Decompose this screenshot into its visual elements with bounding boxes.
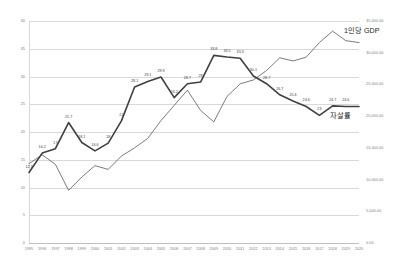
data-label-suicide-2005: 29.9 xyxy=(157,70,164,74)
series-lines xyxy=(0,0,409,274)
data-label-suicide-1997: 17 xyxy=(53,142,57,146)
chart-container: 0510152025303540 0.005,000.0010,000.0015… xyxy=(0,0,409,274)
series-label-suicide-rate: 자살률 xyxy=(330,112,351,119)
data-label-suicide-2019: 24.6 xyxy=(342,99,349,103)
data-label-suicide-2009: 33.8 xyxy=(210,48,217,52)
data-label-suicide-2010: 33.5 xyxy=(223,50,230,54)
data-label-suicide-2018: 24.7 xyxy=(329,99,336,103)
data-label-suicide-1996: 16.2 xyxy=(39,146,46,150)
data-label-suicide-2013: 28.7 xyxy=(263,77,270,81)
data-label-suicide-2006: 26.2 xyxy=(171,91,178,95)
data-label-suicide-2004: 29.1 xyxy=(144,74,151,78)
data-label-suicide-2017: 23 xyxy=(317,108,321,112)
data-label-suicide-2012: 30.1 xyxy=(250,69,257,73)
data-label-suicide-2014: 26.7 xyxy=(276,88,283,92)
data-label-suicide-1999: 18.1 xyxy=(78,136,85,140)
data-label-suicide-2015: 25.6 xyxy=(289,94,296,98)
data-label-suicide-2003: 28.1 xyxy=(131,80,138,84)
line-gdp-per-capita xyxy=(29,31,359,190)
data-label-suicide-2016: 24.6 xyxy=(303,99,310,103)
data-label-suicide-2000: 16.6 xyxy=(91,144,98,148)
line-suicide-rate xyxy=(29,55,359,172)
data-label-suicide-1995: 12.7 xyxy=(25,166,32,170)
data-label-suicide-2011: 33.3 xyxy=(237,51,244,55)
data-label-suicide-2001: 18 xyxy=(106,136,110,140)
data-label-suicide-2007: 28.7 xyxy=(184,77,191,81)
data-label-suicide-1998: 21.7 xyxy=(65,116,72,120)
series-label-gdp-per-capita: 1인당 GDP xyxy=(344,27,380,34)
data-label-suicide-2008: 29 xyxy=(199,75,203,79)
data-label-suicide-2002: 22 xyxy=(119,114,123,118)
